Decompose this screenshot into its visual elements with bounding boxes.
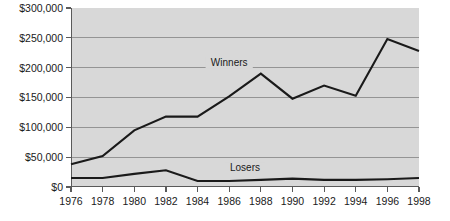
y-axis-tick-labels: $0$50,000$100,000$150,000$200,000$250,00…: [19, 2, 63, 193]
x-tick-label: 1984: [186, 195, 210, 207]
x-tick-label: 1988: [249, 195, 273, 207]
x-tick-label: 1990: [281, 195, 305, 207]
y-tick-label: $250,000: [19, 32, 63, 44]
x-tick-label: 1986: [218, 195, 242, 207]
x-tick-label: 1998: [407, 195, 431, 207]
x-tick-label: 1976: [59, 195, 83, 207]
y-tick-label: $200,000: [19, 62, 63, 74]
x-axis-tick-marks: [71, 187, 419, 192]
line-chart: $0$50,000$100,000$150,000$200,000$250,00…: [0, 0, 450, 221]
y-tick-label: $150,000: [19, 91, 63, 103]
x-tick-label: 1994: [344, 195, 368, 207]
y-tick-label: $0: [51, 181, 63, 193]
y-tick-label: $100,000: [19, 121, 63, 133]
x-tick-label: 1996: [376, 195, 400, 207]
x-tick-label: 1978: [91, 195, 115, 207]
x-tick-label: 1980: [123, 195, 147, 207]
annotation-label-winners: Winners: [211, 57, 248, 68]
chart-canvas: $0$50,000$100,000$150,000$200,000$250,00…: [0, 0, 450, 221]
x-axis-tick-labels: 1976197819801982198419861988199019921994…: [59, 195, 431, 207]
annotation-label-losers: Losers: [230, 162, 260, 173]
y-tick-label: $50,000: [25, 151, 63, 163]
x-tick-label: 1992: [312, 195, 336, 207]
x-tick-label: 1982: [154, 195, 178, 207]
y-axis-tick-marks: [66, 8, 71, 187]
y-tick-label: $300,000: [19, 2, 63, 14]
